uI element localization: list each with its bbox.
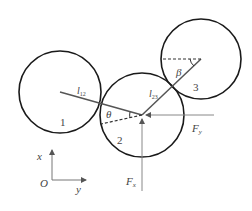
label-fx: Fx: [125, 175, 137, 189]
diagram-canvas: l12 l23 θ β 1 2 3 Fy Fx x y O: [0, 0, 252, 211]
beta-arc: [190, 59, 194, 66]
label-axis-y: y: [75, 183, 81, 195]
label-circle-1: 1: [60, 116, 66, 128]
label-fy: Fy: [191, 122, 203, 136]
label-beta: β: [175, 66, 182, 78]
label-origin: O: [40, 177, 48, 189]
label-axis-x: x: [36, 150, 42, 162]
label-l23: l23: [149, 88, 158, 100]
label-circle-2: 2: [117, 134, 123, 146]
label-circle-3: 3: [193, 81, 199, 93]
label-theta: θ: [106, 108, 112, 120]
label-l12: l12: [77, 85, 86, 97]
